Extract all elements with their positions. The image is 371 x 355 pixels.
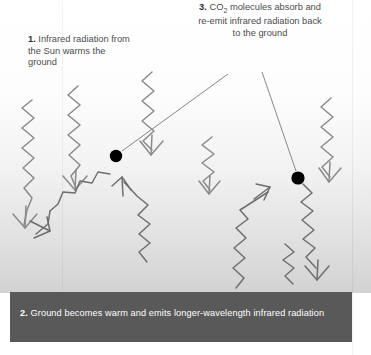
label-step-1: 1. Infrared radiation from the Sun warms… (28, 34, 132, 69)
co2-molecule-right (291, 171, 304, 184)
outgoing-wave-right (233, 184, 270, 288)
incoming-wave-4 (199, 137, 220, 194)
label-step-2: 2. Ground becomes warm and emits longer-… (20, 308, 324, 318)
label-step-2-number: 2. (20, 308, 28, 318)
label-step-3-number: 3. (199, 2, 207, 12)
label-step-3-text-before: CO (209, 2, 223, 12)
reemitted-wave-left (30, 172, 110, 238)
leader-line-step3-left (122, 74, 228, 151)
co2-molecule-left (110, 150, 122, 162)
outgoing-wave-left (112, 177, 150, 262)
label-step-2-text: Ground becomes warm and emits longer-wav… (31, 308, 325, 318)
incoming-wave-3 (140, 72, 163, 155)
leader-line-step3-right (262, 72, 296, 171)
reemitted-wave-right (301, 184, 329, 280)
incoming-wave-2 (63, 86, 87, 190)
incoming-wave-5 (319, 98, 341, 182)
label-step-3: 3. CO2 molecules absorb and re-emit infr… (196, 2, 324, 40)
ground-band: 2. Ground becomes warm and emits longer-… (10, 292, 352, 342)
label-step-1-text: Infrared radiation from the Sun warms th… (28, 34, 130, 67)
incoming-wave-1 (13, 100, 37, 228)
ground-squiggle-right (283, 244, 294, 284)
diagram-canvas: 1. Infrared radiation from the Sun warms… (0, 0, 371, 355)
label-step-1-number: 1. (28, 34, 36, 44)
